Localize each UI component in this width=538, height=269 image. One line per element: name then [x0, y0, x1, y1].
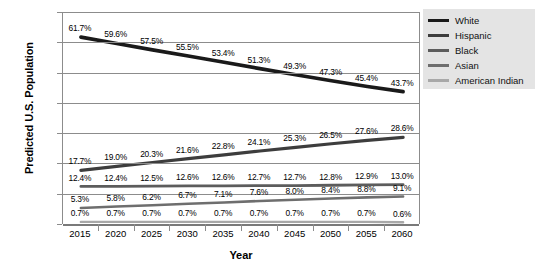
data-label: 12.8% — [319, 172, 342, 182]
legend-swatch-icon — [428, 64, 449, 67]
gridline — [63, 12, 419, 13]
data-label: 0.7% — [321, 208, 339, 218]
data-label: 28.6% — [391, 123, 414, 133]
data-label: 0.7% — [107, 208, 125, 218]
chart-legend: WhiteHispanicBlackAsianAmerican Indian — [423, 9, 535, 89]
legend-item-label: Hispanic — [455, 30, 491, 41]
data-label: 6.7% — [178, 190, 196, 200]
data-label: 12.7% — [283, 172, 306, 182]
data-label: 49.3% — [283, 61, 306, 71]
data-label: 0.7% — [357, 208, 375, 218]
data-label: 12.4% — [104, 173, 127, 183]
legend-item[interactable]: American Indian — [428, 73, 524, 88]
data-label: 7.6% — [250, 187, 268, 197]
series-line — [81, 185, 403, 187]
data-label: 27.6% — [355, 126, 378, 136]
data-label: 0.7% — [250, 208, 268, 218]
legend-swatch-icon — [428, 34, 449, 37]
data-label: 24.1% — [248, 137, 271, 147]
y-axis-tick-mark — [57, 224, 62, 225]
x-axis-tick-mark — [134, 224, 135, 231]
data-label: 12.5% — [140, 173, 163, 183]
series-line — [81, 137, 403, 170]
legend-item[interactable]: White — [428, 13, 479, 28]
data-label: 19.0% — [104, 152, 127, 162]
data-label: 25.3% — [283, 133, 306, 143]
population-projection-line-chart: Predicted U.S. Population 0.0%10.0%20.0%… — [0, 0, 538, 269]
x-axis-tick-mark — [169, 224, 170, 231]
series-line — [81, 37, 403, 92]
data-label: 43.7% — [391, 78, 414, 88]
data-label: 26.5% — [319, 130, 342, 140]
legend-swatch-icon — [428, 19, 449, 23]
series-line — [81, 196, 403, 208]
data-label: 5.3% — [71, 194, 89, 204]
data-label: 6.2% — [142, 192, 160, 202]
legend-item[interactable]: Black — [428, 43, 478, 58]
legend-item-label: Black — [455, 45, 478, 56]
data-label: 55.5% — [176, 42, 199, 52]
x-axis-tick-mark — [348, 224, 349, 231]
data-label: 12.6% — [212, 172, 235, 182]
data-label: 47.3% — [319, 67, 342, 77]
data-label: 61.7% — [69, 23, 92, 33]
data-label: 21.6% — [176, 145, 199, 155]
data-label: 0.7% — [286, 208, 304, 218]
data-label: 59.6% — [104, 29, 127, 39]
data-label: 5.8% — [107, 193, 125, 203]
data-label: 17.7% — [69, 156, 92, 166]
x-axis-tick-mark — [98, 224, 99, 231]
x-axis-tick-mark — [205, 224, 206, 231]
data-label: 8.4% — [321, 185, 339, 195]
legend-item[interactable]: Asian — [428, 58, 479, 73]
data-label: 13.0% — [391, 171, 414, 181]
data-label: 57.5% — [140, 36, 163, 46]
x-axis-tick-mark — [313, 224, 314, 231]
legend-swatch-icon — [428, 79, 449, 81]
data-label: 7.1% — [214, 189, 232, 199]
x-axis-tick-mark — [241, 224, 242, 231]
x-axis-tick-label: 2060 — [380, 228, 424, 239]
data-label: 0.7% — [178, 208, 196, 218]
legend-swatch-icon — [428, 49, 449, 52]
data-label: 12.9% — [355, 171, 378, 181]
gridline — [63, 42, 419, 43]
data-label: 12.6% — [176, 172, 199, 182]
gridline — [63, 163, 419, 164]
legend-item-label: White — [455, 15, 479, 26]
x-axis-tick-mark — [277, 224, 278, 231]
data-label: 51.3% — [248, 55, 271, 65]
x-axis-title: Year — [62, 249, 420, 261]
data-label: 8.8% — [357, 184, 375, 194]
data-label: 0.7% — [71, 208, 89, 218]
legend-item[interactable]: Hispanic — [428, 28, 491, 43]
data-label: 0.7% — [142, 208, 160, 218]
data-label: 8.0% — [286, 186, 304, 196]
data-label: 0.6% — [393, 209, 411, 219]
data-label: 22.8% — [212, 141, 235, 151]
legend-item-label: American Indian — [455, 75, 524, 86]
data-label: 12.4% — [69, 173, 92, 183]
x-axis-tick-mark — [384, 224, 385, 231]
data-label: 45.4% — [355, 73, 378, 83]
legend-item-label: Asian — [455, 60, 479, 71]
gridline — [63, 103, 419, 104]
data-label: 12.7% — [248, 172, 271, 182]
data-label: 53.4% — [212, 48, 235, 58]
data-label: 20.3% — [140, 149, 163, 159]
data-label: 0.7% — [214, 208, 232, 218]
data-label: 9.1% — [393, 183, 411, 193]
